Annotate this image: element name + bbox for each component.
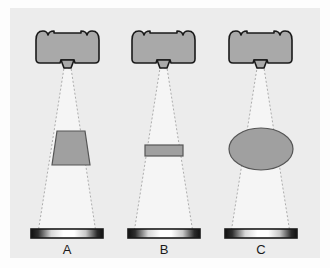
projector-b-nozzle (157, 60, 170, 68)
projector-a (36, 31, 99, 68)
ellipse-shape-c (229, 128, 293, 170)
rectangle-shape-b (145, 145, 183, 156)
gradient-bar-a (31, 229, 103, 238)
projector-c (229, 31, 292, 68)
caption-c: C (241, 243, 281, 257)
projector-b (132, 31, 195, 68)
caption-a: A (47, 243, 87, 257)
column-a (31, 31, 103, 238)
column-c (225, 31, 297, 238)
caption-b: B (144, 243, 184, 257)
trapezoid-shape-a (52, 131, 90, 165)
gradient-bar-b (128, 229, 200, 238)
diagram-svg (0, 0, 330, 268)
projector-c-nozzle (254, 60, 267, 68)
gradient-bar-c (225, 229, 297, 238)
projector-a-nozzle (61, 60, 74, 68)
figure-canvas: A B C (0, 0, 330, 268)
column-b (128, 31, 200, 238)
